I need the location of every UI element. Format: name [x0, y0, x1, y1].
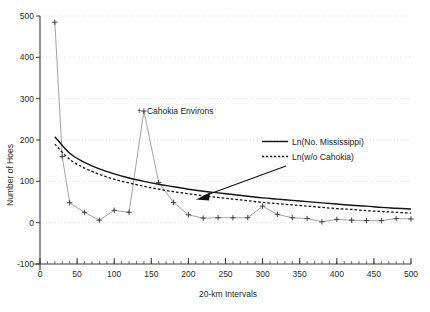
cahokia-annotation-marker: + [137, 106, 142, 116]
legend-label-no-mississippi: Ln(No. Mississippi) [292, 137, 364, 147]
x-tick-label: 250 [218, 269, 232, 279]
cahokia-annotation: Cahokia Environs + [137, 106, 214, 116]
y-tick-label: 300 [20, 94, 34, 104]
x-tick-label: 500 [404, 269, 418, 279]
x-tick-label: 150 [144, 269, 158, 279]
y-tick-label: 500 [20, 11, 34, 21]
x-tick-label: 100 [107, 269, 121, 279]
cahokia-annotation-label: Cahokia Environs [147, 106, 214, 116]
chart-figure: -1000100200300400500 0501001502002503003… [0, 0, 430, 312]
chart-background [0, 0, 430, 312]
x-tick-label: 350 [293, 269, 307, 279]
y-tick-label: 200 [20, 135, 34, 145]
x-tick-label: 50 [72, 269, 82, 279]
x-tick-label: 450 [367, 269, 381, 279]
y-tick-label: 100 [20, 176, 34, 186]
chart-canvas: -1000100200300400500 0501001502002503003… [0, 0, 430, 312]
y-tick-label: -100 [17, 259, 34, 269]
x-axis-title: 20-km Intervals [199, 289, 257, 299]
y-tick-label: 400 [20, 52, 34, 62]
x-tick-label: 200 [181, 269, 195, 279]
x-tick-label: 400 [330, 269, 344, 279]
y-axis-title: Number of Hoes [5, 144, 15, 206]
y-tick-label: 0 [29, 218, 34, 228]
legend-label-wo-cahokia: Ln(w/o Cahokia) [292, 152, 354, 162]
x-tick-label: 0 [38, 269, 43, 279]
x-tick-label: 300 [256, 269, 270, 279]
